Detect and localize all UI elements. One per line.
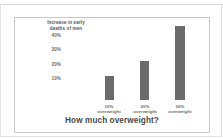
x-tick-label-3: 30% overweight [160,104,200,114]
y-tick-label-20: 20% [35,62,61,67]
y-tick-label-10: 10% [35,76,61,81]
x-tick-label-3-line-2: overweight [160,109,200,114]
bar-20-percent-overweight [140,61,149,100]
chart-container: Increase in early deaths of men 40% 30% … [14,17,210,133]
x-tick-label-2-line-2: overweight [125,109,165,114]
x-tick-label-2: 20% overweight [125,104,165,114]
plot-area: Increase in early deaths of men 40% 30% … [15,18,209,132]
x-axis-title: How much overweight? [15,116,209,126]
y-axis-title: Increase in early deaths of men [29,20,103,31]
chart-screenshot: Increase in early deaths of men 40% 30% … [0,0,223,138]
x-tick-label-1-line-2: overweight [89,109,129,114]
y-tick-label-30: 30% [35,47,61,52]
bar-30-percent-overweight [175,26,185,100]
y-tick-label-40: 40% [35,33,61,38]
bar-10-percent-overweight [105,76,114,100]
y-axis-title-line-2: deaths of men [29,26,103,32]
x-tick-label-1: 10% overweight [89,104,129,114]
page-frame: Increase in early deaths of men 40% 30% … [0,5,222,137]
